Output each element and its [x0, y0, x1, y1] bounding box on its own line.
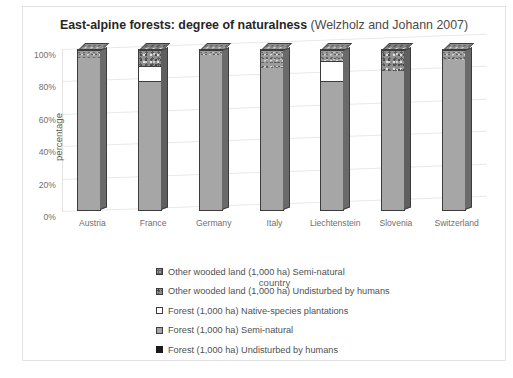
chart-panel: East-alpine forests: degree of naturalne…	[22, 6, 506, 361]
y-axis-tick-label: 60%	[16, 115, 56, 125]
y-axis-tick-label: 100%	[16, 50, 56, 60]
bar-segment[interactable]	[261, 50, 283, 68]
bar-segment[interactable]	[200, 50, 222, 55]
x-axis-tick-label: Italy	[267, 218, 283, 228]
bar-segment[interactable]	[321, 61, 343, 82]
bar-segment[interactable]	[139, 82, 161, 210]
stacked-bar[interactable]	[260, 49, 284, 211]
legend-swatch-icon	[156, 288, 163, 295]
legend-swatch-icon	[156, 327, 163, 334]
chart-title: East-alpine forests: degree of naturalne…	[23, 18, 505, 32]
bar-side-face	[100, 47, 107, 210]
y-axis-label: percentage	[53, 113, 64, 161]
bar-segment[interactable]	[139, 50, 161, 66]
stacked-bar[interactable]	[320, 49, 344, 211]
stacked-bar[interactable]	[381, 49, 405, 211]
stacked-bar[interactable]	[138, 49, 162, 211]
bar-segment[interactable]	[200, 55, 222, 210]
legend-swatch-icon	[156, 268, 163, 275]
x-axis-tick-label: Germany	[196, 218, 231, 228]
x-axis-tick-label: France	[140, 218, 167, 228]
bar-segment[interactable]	[443, 50, 465, 60]
legend-item[interactable]: Forest (1,000 ha) Semi-natural	[23, 321, 505, 341]
bar-side-face	[283, 47, 290, 210]
stacked-bar[interactable]	[442, 49, 466, 211]
bar-side-face	[465, 47, 472, 210]
legend-item[interactable]: Other wooded land (1,000 ha) Undisturbed…	[23, 282, 505, 302]
plot-area: 0%20%40%60%80%100% AustriaFranceGermanyI…	[62, 49, 487, 211]
bar-segment[interactable]	[78, 50, 100, 58]
chart-legend: Other wooded land (1,000 ha) Semi-natura…	[23, 262, 505, 360]
bar-segment[interactable]	[382, 50, 404, 71]
legend-label: Other wooded land (1,000 ha) Semi-natura…	[168, 267, 345, 277]
stacked-bar[interactable]	[199, 49, 223, 211]
y-axis-tick-label: 40%	[16, 147, 56, 157]
bar-segment[interactable]	[443, 60, 465, 210]
y-axis-tick-label: 20%	[16, 180, 56, 190]
legend-swatch-icon	[156, 346, 163, 353]
x-axis-tick-label: Switzerland	[434, 218, 478, 228]
y-axis-tick-label: 0%	[16, 212, 56, 222]
legend-item[interactable]: Other wooded land (1,000 ha) Semi-natura…	[23, 262, 505, 282]
legend-label: Forest (1,000 ha) Native-species plantat…	[168, 306, 348, 316]
legend-label: Forest (1,000 ha) Semi-natural	[168, 325, 293, 335]
bar-side-face	[222, 47, 229, 210]
bar-segment[interactable]	[139, 66, 161, 82]
bar-segment[interactable]	[321, 50, 343, 61]
bar-segment[interactable]	[261, 68, 283, 210]
bar-side-face	[404, 47, 411, 210]
bar-segment[interactable]	[382, 71, 404, 210]
legend-label: Forest (1,000 ha) Undisturbed by humans	[168, 345, 338, 355]
bar-side-face	[161, 47, 168, 210]
legend-swatch-icon	[156, 307, 163, 314]
x-axis-tick-label: Liechtenstein	[310, 218, 361, 228]
x-axis-tick-label: Austria	[79, 218, 106, 228]
chart-title-citation: (Welzholz and Johann 2007)	[307, 18, 468, 32]
y-axis-tick-label: 80%	[16, 82, 56, 92]
chart-title-main: East-alpine forests: degree of naturalne…	[60, 18, 307, 32]
legend-item[interactable]: Forest (1,000 ha) Undisturbed by humans	[23, 340, 505, 360]
bar-segment[interactable]	[321, 82, 343, 210]
x-axis-tick-label: Slovenia	[379, 218, 412, 228]
bar-side-face	[343, 47, 350, 210]
legend-label: Other wooded land (1,000 ha) Undisturbed…	[168, 286, 390, 296]
legend-item[interactable]: Forest (1,000 ha) Native-species plantat…	[23, 301, 505, 321]
stacked-bar[interactable]	[77, 49, 101, 211]
bar-segment[interactable]	[78, 58, 100, 210]
